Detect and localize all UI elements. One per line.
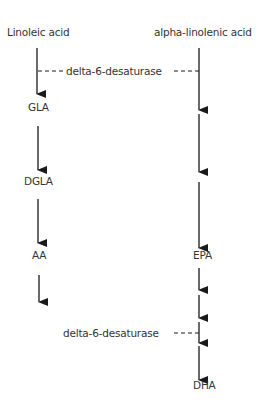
label-aa: AA xyxy=(32,250,46,261)
label-dgla: DGLA xyxy=(24,176,53,187)
label-alpha-linolenic-acid: alpha-linolenic acid xyxy=(154,27,252,38)
label-linoleic-acid: Linoleic acid xyxy=(7,27,69,38)
pathway-arrows xyxy=(0,0,274,409)
label-gla: GLA xyxy=(28,102,49,113)
label-enzyme-top: delta-6-desaturase xyxy=(66,66,162,77)
label-epa: EPA xyxy=(193,250,212,261)
label-dha: DHA xyxy=(193,380,216,391)
label-enzyme-bottom: delta-6-desaturase xyxy=(63,328,159,339)
